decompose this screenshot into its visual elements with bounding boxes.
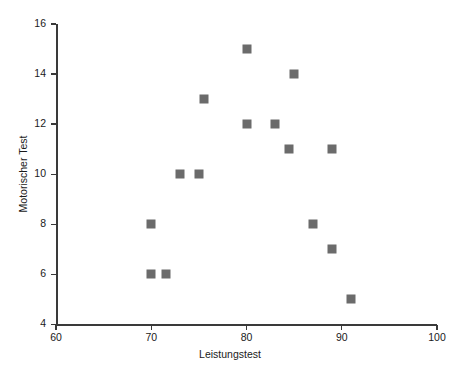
data-point	[309, 220, 318, 229]
y-tick-mark	[51, 73, 56, 74]
data-point	[161, 270, 170, 279]
data-point	[242, 45, 251, 54]
y-tick-mark	[51, 23, 56, 24]
x-tick-label: 80	[227, 332, 267, 343]
data-point	[347, 295, 356, 304]
data-point	[271, 120, 280, 129]
y-tick-label: 16	[18, 18, 46, 29]
x-tick-label: 70	[131, 332, 171, 343]
y-tick-label: 14	[18, 68, 46, 79]
x-tick-mark	[55, 325, 56, 330]
x-tick-mark	[151, 325, 152, 330]
data-point	[285, 145, 294, 154]
scatter-chart: 46810121416 60708090100 Leistungstest Mo…	[0, 0, 460, 371]
data-point	[147, 220, 156, 229]
data-point	[290, 70, 299, 79]
plot-area	[0, 0, 460, 371]
data-point	[199, 95, 208, 104]
y-tick-mark	[51, 123, 56, 124]
data-point	[194, 170, 203, 179]
data-point	[175, 170, 184, 179]
x-tick-mark	[341, 325, 342, 330]
y-tick-mark	[51, 224, 56, 225]
data-point	[242, 120, 251, 129]
y-axis-line	[56, 24, 58, 326]
y-tick-mark	[51, 274, 56, 275]
y-tick-label: 6	[18, 268, 46, 279]
x-axis-title: Leistungstest	[0, 348, 460, 360]
y-tick-label: 4	[18, 318, 46, 329]
y-tick-mark	[51, 174, 56, 175]
x-tick-mark	[436, 325, 437, 330]
data-point	[147, 270, 156, 279]
data-point	[328, 145, 337, 154]
data-point	[328, 245, 337, 254]
x-tick-mark	[246, 325, 247, 330]
y-axis-title: Motorischer Test	[17, 104, 29, 244]
x-tick-label: 60	[36, 332, 76, 343]
x-tick-label: 100	[417, 332, 457, 343]
x-tick-label: 90	[322, 332, 362, 343]
